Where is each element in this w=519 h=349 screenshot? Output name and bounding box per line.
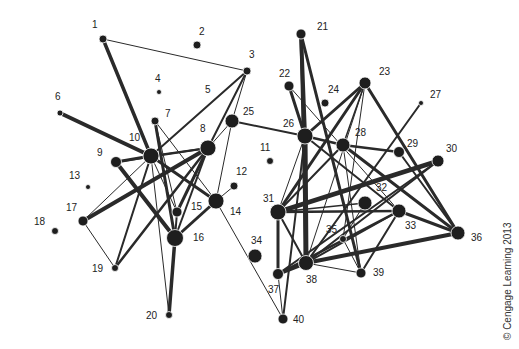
node-39 [356,268,366,278]
node-label-15: 15 [191,201,203,212]
node-label-16: 16 [193,232,205,243]
node-17 [78,216,88,226]
node-28 [336,138,350,152]
node-label-38: 38 [306,274,318,285]
node-29 [394,147,405,158]
node-32 [358,196,372,210]
node-19 [112,265,119,272]
node-layer [52,29,466,324]
node-21 [296,29,306,39]
node-label-18: 18 [34,216,46,227]
edge-16-20 [169,238,175,315]
node-label-12: 12 [236,166,248,177]
node-label-31: 31 [263,193,275,204]
node-label-39: 39 [373,267,385,278]
edge-38-39 [306,263,361,273]
node-label-22: 22 [279,68,291,79]
node-26 [297,128,313,144]
node-label-26: 26 [283,118,295,129]
node-22 [284,81,294,91]
label-layer: 1234567891011121314151617181920212223242… [34,19,483,325]
node-label-9: 9 [97,147,103,158]
edge-3-8 [208,71,247,148]
node-label-11: 11 [260,142,271,153]
node-33 [392,204,406,218]
node-30 [432,155,444,167]
copyright-notice: © Cengage Learning 2013 [502,223,513,340]
node-6 [57,110,63,116]
node-label-25: 25 [243,106,255,117]
node-label-24: 24 [328,84,340,95]
node-15 [172,207,182,217]
node-18 [52,228,59,235]
node-label-4: 4 [155,73,161,84]
node-38 [299,256,314,271]
edge-26-38 [305,136,306,263]
node-2 [193,41,201,49]
node-37 [273,269,284,280]
node-label-35: 35 [326,224,338,235]
network-diagram: 1234567891011121314151617181920212223242… [0,0,519,349]
node-label-27: 27 [430,89,442,100]
node-label-37: 37 [268,284,280,295]
node-label-10: 10 [129,132,141,143]
node-25 [225,114,239,128]
node-label-30: 30 [446,143,458,154]
node-label-3: 3 [249,49,255,60]
edge-layer [60,34,458,319]
node-34 [248,249,262,263]
node-11 [267,158,274,165]
node-label-1: 1 [92,19,98,30]
edge-25-14 [216,121,232,201]
node-24 [321,99,329,107]
node-35 [340,236,347,243]
node-14 [208,193,224,209]
node-10 [143,148,159,164]
node-label-13: 13 [69,170,81,181]
node-16 [167,230,184,247]
node-27 [419,101,424,106]
node-label-34: 34 [251,235,263,246]
node-13 [86,185,91,190]
node-label-2: 2 [199,26,205,37]
node-label-20: 20 [146,310,158,321]
node-label-21: 21 [317,21,329,32]
edge-17-19 [83,221,115,268]
node-31 [270,204,286,220]
node-7 [151,117,159,125]
node-8 [200,140,216,156]
node-9 [111,157,122,168]
node-label-14: 14 [230,206,242,217]
node-label-17: 17 [66,202,78,213]
node-label-32: 32 [376,182,388,193]
node-label-5: 5 [205,84,211,95]
node-1 [99,35,107,43]
node-label-6: 6 [55,91,61,102]
node-label-28: 28 [355,127,367,138]
node-label-36: 36 [471,232,483,243]
edge-1-3 [103,39,247,71]
node-40 [278,314,288,324]
node-12 [230,182,238,190]
node-label-19: 19 [92,263,104,274]
node-label-29: 29 [407,138,419,149]
node-36 [451,226,465,240]
node-3 [243,67,251,75]
node-label-40: 40 [293,314,305,325]
node-label-33: 33 [405,220,417,231]
node-label-8: 8 [200,123,206,134]
node-20 [166,312,173,319]
node-4 [157,90,162,95]
node-23 [359,77,371,89]
node-label-23: 23 [379,66,391,77]
node-label-7: 7 [165,108,171,119]
